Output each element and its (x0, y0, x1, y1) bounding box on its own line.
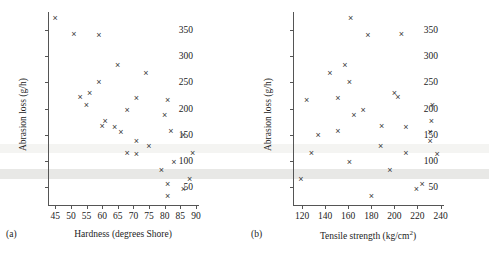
x-tick-label: 60 (97, 211, 107, 221)
data-point (158, 167, 165, 174)
data-point (164, 193, 171, 200)
x-axis-title-a: Hardness (degrees Shore) (48, 229, 198, 239)
x-tick-label: 90 (191, 211, 201, 221)
y-tick-label: 50 (429, 182, 439, 192)
data-point (161, 112, 168, 119)
y-tick-mark (290, 161, 294, 162)
y-tick-mark (45, 161, 49, 162)
data-point (164, 97, 171, 104)
y-tick-mark (45, 187, 49, 188)
plot-area-b (294, 12, 444, 205)
y-tick-mark (290, 82, 294, 83)
x-tick-mark (149, 205, 150, 209)
data-point (334, 95, 341, 102)
data-point (171, 159, 178, 166)
data-point (111, 124, 118, 131)
data-point (124, 150, 131, 157)
x-tick-mark (417, 205, 418, 209)
y-tick-mark (290, 109, 294, 110)
data-point (52, 15, 59, 22)
x-tick-label: 140 (318, 211, 332, 221)
data-point (117, 129, 124, 136)
y-tick-label: 150 (424, 130, 438, 140)
data-point (398, 31, 405, 38)
y-tick-label: 300 (179, 51, 193, 61)
x-tick-mark (165, 205, 166, 209)
data-point (297, 176, 304, 183)
y-tick-label: 200 (424, 104, 438, 114)
y-axis-title-a: Abrasion loss (g/h) (18, 78, 28, 151)
x-tick-mark (441, 205, 442, 209)
data-point (386, 167, 393, 174)
data-point (96, 79, 103, 86)
y-tick-label: 100 (424, 156, 438, 166)
x-tick-mark (133, 205, 134, 209)
data-point (351, 112, 358, 119)
x-tick-label: 55 (82, 211, 92, 221)
x-tick-label: 75 (144, 211, 154, 221)
data-point (308, 150, 315, 157)
data-point (368, 193, 375, 200)
x-tick-mark (394, 205, 395, 209)
y-tick-mark (290, 187, 294, 188)
data-point (315, 132, 322, 139)
data-point (346, 79, 353, 86)
x-tick-mark (71, 205, 72, 209)
data-point (341, 62, 348, 69)
x-tick-mark (87, 205, 88, 209)
data-point (164, 181, 171, 188)
x-axis-title-b-main: Tensile strength (kg/cm (320, 231, 410, 241)
x-tick-label: 65 (113, 211, 123, 221)
y-tick-label: 200 (179, 104, 193, 114)
figure-panel-b: 5010015020025030035012014016018020022024… (245, 0, 489, 266)
data-point (334, 128, 341, 135)
x-tick-label: 50 (66, 211, 76, 221)
y-tick-label: 150 (179, 130, 193, 140)
y-tick-mark (290, 56, 294, 57)
data-point (71, 31, 78, 38)
x-tick-mark (371, 205, 372, 209)
y-tick-label: 100 (179, 156, 193, 166)
plot-frame-a: 5010015020025030035045505560657075808590 (48, 12, 199, 206)
data-point (402, 150, 409, 157)
data-point (124, 107, 131, 114)
x-tick-mark (196, 205, 197, 209)
x-tick-label: 180 (364, 211, 378, 221)
data-point (96, 32, 103, 39)
data-point (346, 159, 353, 166)
data-point (114, 62, 121, 69)
data-point (326, 70, 333, 77)
y-tick-mark (45, 82, 49, 83)
data-point (86, 90, 93, 97)
plot-area-a (49, 12, 199, 205)
x-tick-mark (302, 205, 303, 209)
y-tick-label: 250 (424, 77, 438, 87)
data-point (347, 15, 354, 22)
y-tick-mark (45, 135, 49, 136)
y-tick-mark (290, 135, 294, 136)
x-tick-mark (118, 205, 119, 209)
x-tick-mark (325, 205, 326, 209)
data-point (133, 95, 140, 102)
data-point (146, 143, 153, 150)
x-tick-mark (102, 205, 103, 209)
data-point (428, 118, 435, 125)
y-tick-label: 350 (179, 25, 193, 35)
data-point (99, 123, 106, 130)
data-point (83, 102, 90, 109)
x-tick-mark (55, 205, 56, 209)
y-axis-title-b: Abrasion loss (g/h) (263, 78, 273, 151)
x-tick-label: 45 (51, 211, 61, 221)
plot-frame-b: 5010015020025030035012014016018020022024… (293, 12, 444, 206)
x-tick-label: 85 (176, 211, 186, 221)
x-tick-label: 240 (433, 211, 447, 221)
data-point (364, 32, 371, 39)
x-tick-mark (348, 205, 349, 209)
y-tick-label: 50 (184, 182, 194, 192)
data-point (167, 128, 174, 135)
data-point (413, 186, 420, 193)
y-tick-label: 350 (424, 25, 438, 35)
data-point (142, 70, 149, 77)
y-tick-mark (45, 30, 49, 31)
x-axis-title-b: Tensile strength (kg/cm2) (293, 229, 443, 241)
